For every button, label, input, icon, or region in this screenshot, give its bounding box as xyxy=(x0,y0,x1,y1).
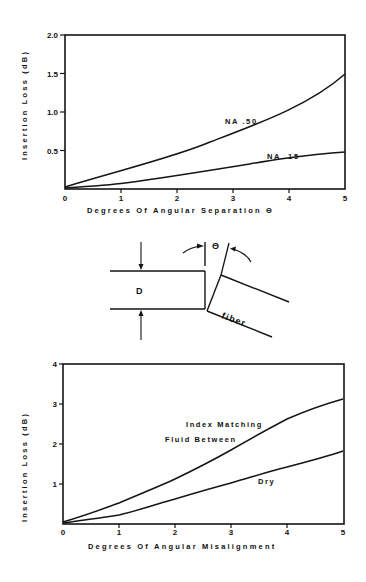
curve-index-matching xyxy=(63,399,343,522)
bottom-y-tick-1: 1 xyxy=(53,480,58,489)
top-y-tick-0-5: 0.5 xyxy=(47,147,59,156)
label-index-matching: Index Matching xyxy=(186,420,263,429)
bottom-y-tick-4: 4 xyxy=(53,360,58,369)
label-na-50: NA .50 xyxy=(225,117,258,126)
label-fluid-between: Fluid Between xyxy=(165,435,237,444)
figure: 2.0 1.5 1.0 0.5 0 1 2 3 4 5 Degrees Of A… xyxy=(0,0,366,582)
top-y-tick-1-0: 1.0 xyxy=(47,108,59,117)
diameter-label: D xyxy=(136,286,143,296)
angle-label: Θ xyxy=(212,241,219,251)
top-x-tick-2: 2 xyxy=(175,194,180,203)
angle-arrow-right xyxy=(230,247,251,263)
top-x-tick-0: 0 xyxy=(63,194,68,203)
label-na-15: NA .15 xyxy=(267,152,300,161)
bottom-x-tick-0: 0 xyxy=(61,528,66,537)
fiber-diagram: D fiber Θ xyxy=(110,241,289,340)
bottom-x-ticks: 0 1 2 3 4 5 xyxy=(61,524,346,537)
bottom-x-tick-4: 4 xyxy=(285,528,290,537)
bottom-x-tick-2: 2 xyxy=(173,528,178,537)
diameter-arrow-bottom xyxy=(139,310,144,340)
diameter-arrow-top xyxy=(139,242,144,270)
curve-dry xyxy=(63,451,343,523)
top-x-axis-label: Degrees Of Angular Separation Θ xyxy=(87,206,274,215)
bottom-plot-frame xyxy=(63,364,344,524)
bottom-chart: 4 3 2 1 0 1 2 3 4 5 Degrees Of Angular M… xyxy=(20,360,346,551)
left-fiber xyxy=(110,271,205,309)
bottom-x-tick-1: 1 xyxy=(117,528,122,537)
angle-arrow-left xyxy=(183,244,204,254)
top-y-tick-1-5: 1.5 xyxy=(47,70,59,79)
top-chart: 2.0 1.5 1.0 0.5 0 1 2 3 4 5 Degrees Of A… xyxy=(20,31,348,215)
top-x-tick-5: 5 xyxy=(343,194,348,203)
bottom-x-tick-3: 3 xyxy=(229,528,234,537)
top-y-ticks: 2.0 1.5 1.0 0.5 xyxy=(47,31,65,156)
curve-na-15 xyxy=(65,152,345,188)
top-x-tick-1: 1 xyxy=(119,194,124,203)
top-y-tick-2-0: 2.0 xyxy=(47,31,59,40)
fiber-label: fiber xyxy=(220,310,247,328)
bottom-x-axis-label: Degrees Of Angular Misalignment xyxy=(88,542,276,551)
label-dry: Dry xyxy=(258,477,275,486)
top-x-tick-4: 4 xyxy=(287,194,292,203)
bottom-y-ticks: 4 3 2 1 xyxy=(53,360,63,489)
bottom-y-tick-2: 2 xyxy=(53,440,58,449)
top-y-axis-label: Insertion Loss (dB) xyxy=(20,50,29,160)
top-x-ticks: 0 1 2 3 4 5 xyxy=(63,189,348,203)
top-plot-frame xyxy=(65,35,345,189)
bottom-y-tick-3: 3 xyxy=(53,400,58,409)
curve-na-50 xyxy=(65,74,345,187)
bottom-x-tick-5: 5 xyxy=(341,528,346,537)
bottom-y-axis-label: Insertion Loss (dB) xyxy=(20,412,29,522)
top-x-tick-3: 3 xyxy=(231,194,236,203)
